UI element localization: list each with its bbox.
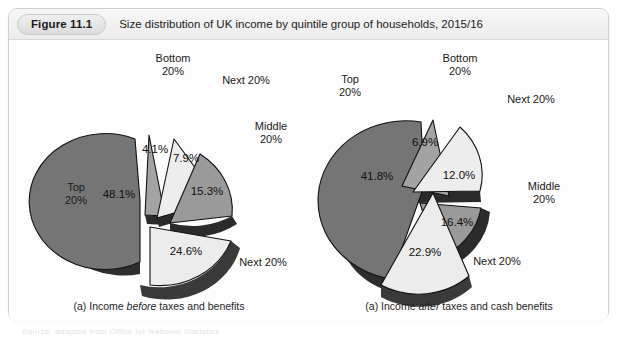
value-next-lower-before: 24.6% xyxy=(170,245,203,257)
label-next-lower-after: Next 20% xyxy=(473,255,521,267)
caption-after-suffix: taxes and cash benefits xyxy=(439,300,552,312)
value-next-upper-after: 12.0% xyxy=(443,169,476,181)
pie-slices-before xyxy=(29,134,232,286)
value-next-lower-after: 22.9% xyxy=(409,246,442,258)
caption-after: (a) Income after taxes and cash benefits xyxy=(309,300,609,312)
caption-after-prefix: (a) Income xyxy=(365,300,418,312)
label-next-lower-before: Next 20% xyxy=(239,256,287,268)
pie-chart-before: 48.1% 4.1% 7.9% 15.3% 24.6% Top20% Botto… xyxy=(9,40,309,321)
caption-before-emphasis: before xyxy=(127,300,157,312)
caption-before-suffix: taxes and benefits xyxy=(156,300,244,312)
label-middle-before: Middle20% xyxy=(255,120,287,145)
page-scrap-text: Source: adapted from Office for National… xyxy=(22,327,220,336)
label-top-after: Top20% xyxy=(339,73,361,98)
value-next-upper-before: 7.9% xyxy=(173,152,199,164)
figure-title: Size distribution of UK income by quinti… xyxy=(119,18,483,30)
value-top-after: 41.8% xyxy=(361,170,394,182)
value-top-before: 48.1% xyxy=(103,188,136,200)
label-bottom-before: Bottom20% xyxy=(156,52,191,77)
label-bottom-after: Bottom20% xyxy=(443,52,478,77)
figure-title-bar: Figure 11.1 Size distribution of UK inco… xyxy=(9,9,608,40)
pie-slices-after xyxy=(318,120,482,294)
label-next-upper-after: Next 20% xyxy=(507,93,555,105)
charts-area: 48.1% 4.1% 7.9% 15.3% 24.6% Top20% Botto… xyxy=(9,40,608,321)
pie-panel-before: 48.1% 4.1% 7.9% 15.3% 24.6% Top20% Botto… xyxy=(9,40,309,321)
caption-before-prefix: (a) Income xyxy=(73,300,126,312)
pie-panel-after: 41.8% 6.9% 12.0% 16.4% 22.9% Top20% Bott… xyxy=(309,40,609,321)
figure-number-badge: Figure 11.1 xyxy=(17,14,106,35)
label-next-upper-before: Next 20% xyxy=(222,74,270,86)
value-middle-after: 16.4% xyxy=(441,216,474,228)
caption-before: (a) Income before taxes and benefits xyxy=(9,300,309,312)
pie-chart-after: 41.8% 6.9% 12.0% 16.4% 22.9% Top20% Bott… xyxy=(309,40,609,321)
value-bottom-before: 4.1% xyxy=(142,143,168,155)
label-middle-after: Middle20% xyxy=(528,180,560,205)
figure-container: Figure 11.1 Size distribution of UK inco… xyxy=(8,8,609,320)
value-bottom-after: 6.9% xyxy=(412,136,438,148)
value-middle-before: 15.3% xyxy=(191,185,224,197)
label-top-before: Top20% xyxy=(65,181,87,206)
caption-after-emphasis: after xyxy=(418,300,439,312)
